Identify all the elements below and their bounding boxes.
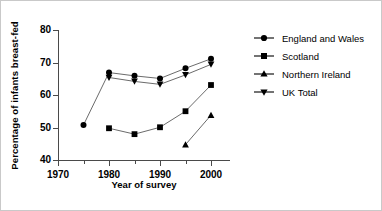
circle-marker-icon xyxy=(253,31,275,45)
square-marker-icon xyxy=(253,49,275,63)
chart-figure: Percentage of infants breast-fed 80 70 6… xyxy=(0,0,382,211)
y-tick-label-40: 40 xyxy=(40,155,51,165)
y-tick-label-80: 80 xyxy=(40,25,51,35)
x-tick-1995 xyxy=(186,161,187,164)
y-tick-label-50: 50 xyxy=(40,123,51,133)
x-tick-1980 xyxy=(109,161,110,166)
series-england-and-wales xyxy=(81,56,215,128)
x-axis-title: Year of survey xyxy=(58,179,230,190)
y-axis-title-text: Percentage of infants breast-fed xyxy=(9,21,20,169)
series-northern-ireland xyxy=(182,112,214,148)
plot-area: Percentage of infants breast-fed 80 70 6… xyxy=(1,1,251,210)
x-tick-1990 xyxy=(160,161,161,166)
legend-item-scotland: Scotland xyxy=(253,47,381,65)
x-tick-2000 xyxy=(211,161,212,166)
y-tick-label-60: 60 xyxy=(40,90,51,100)
legend-label-uk-total: UK Total xyxy=(282,87,318,98)
x-tick-1985 xyxy=(135,161,136,164)
series-scotland xyxy=(106,82,214,137)
legend-item-england-and-wales: England and Wales xyxy=(253,29,381,47)
x-tick-1975 xyxy=(84,161,85,164)
axes: 80 70 60 50 40 1970 1980 1990 2000 xyxy=(58,30,226,161)
legend-item-northern-ireland: Northern Ireland xyxy=(253,65,381,83)
data-series-layer xyxy=(58,30,226,161)
legend-label-scotland: Scotland xyxy=(282,51,319,62)
legend-label-england-and-wales: England and Wales xyxy=(282,33,364,44)
legend: England and Wales Scotland Northern Irel… xyxy=(253,29,381,101)
y-axis-title: Percentage of infants breast-fed xyxy=(7,30,21,161)
x-tick-1970 xyxy=(58,161,59,166)
triangle-up-marker-icon xyxy=(253,67,275,81)
triangle-down-marker-icon xyxy=(253,85,275,99)
legend-label-northern-ireland: Northern Ireland xyxy=(282,69,351,80)
legend-item-uk-total: UK Total xyxy=(253,83,381,101)
y-tick-label-70: 70 xyxy=(40,58,51,68)
